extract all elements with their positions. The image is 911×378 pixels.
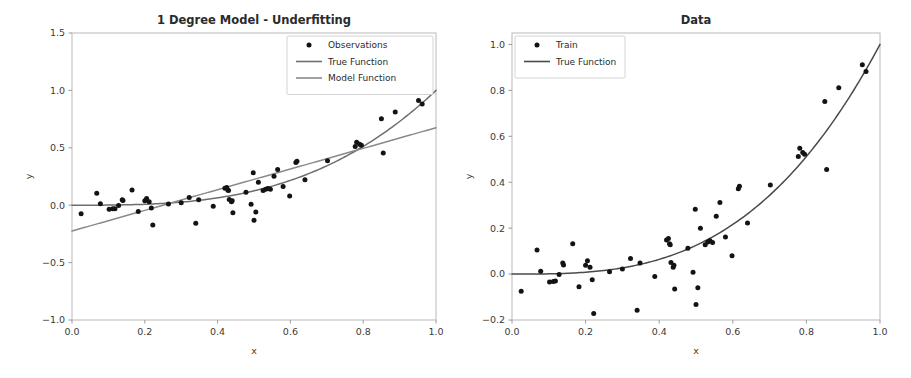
chart-title: 1 Degree Model - Underfitting [157, 13, 351, 27]
legend-marker-dot-icon [307, 43, 312, 48]
data-point [714, 214, 719, 219]
data-point [710, 240, 715, 245]
y-tick-label: 0.0 [50, 200, 65, 211]
data-point [561, 262, 566, 267]
legend-label: Observations [328, 40, 388, 50]
data-point [393, 109, 398, 114]
data-point [860, 62, 865, 67]
x-axis-label: x [693, 345, 699, 356]
data-point [130, 188, 135, 193]
data-point [420, 101, 425, 106]
data-point [585, 258, 590, 263]
data-point [535, 247, 540, 252]
data-point [179, 200, 184, 205]
figure-canvas: 1 Degree Model - Underfitting0.00.20.40.… [0, 0, 911, 378]
true-function-curve [512, 44, 880, 274]
legend-label: True Function [555, 57, 616, 67]
data-point [416, 98, 421, 103]
data-point [230, 198, 235, 203]
data-point [668, 242, 673, 247]
y-tick-label: 1.0 [50, 85, 65, 96]
x-tick-label: 0.8 [356, 326, 371, 337]
data-point [824, 167, 829, 172]
data-point [802, 152, 807, 157]
data-point [576, 284, 581, 289]
chart-panel-right: Data0.00.20.40.60.81.0−0.20.00.20.40.60.… [455, 0, 910, 378]
data-point [694, 302, 699, 307]
legend-marker-dot-icon [535, 43, 540, 48]
y-tick-label: 0.6 [490, 131, 505, 142]
data-point [588, 265, 593, 270]
data-point [243, 190, 248, 195]
x-tick-label: 0.8 [799, 326, 814, 337]
data-point [671, 263, 676, 268]
data-point [379, 116, 384, 121]
data-point [635, 308, 640, 313]
x-tick-label: 0.0 [64, 326, 79, 337]
scatter-series [79, 98, 425, 227]
data-point [253, 210, 258, 215]
data-point [116, 203, 121, 208]
x-tick-label: 0.2 [578, 326, 593, 337]
data-point [226, 188, 231, 193]
data-point [570, 241, 575, 246]
data-point [538, 269, 543, 274]
data-point [737, 184, 742, 189]
data-point [381, 150, 386, 155]
x-tick-label: 1.0 [428, 326, 443, 337]
data-point [768, 183, 773, 188]
data-point [628, 256, 633, 261]
x-tick-label: 0.2 [137, 326, 152, 337]
data-point [864, 69, 869, 74]
data-point [652, 274, 657, 279]
data-point [693, 207, 698, 212]
y-axis-label: y [23, 173, 34, 179]
data-point [211, 204, 216, 209]
model-function-curve [72, 128, 436, 231]
x-axis-label: x [251, 345, 257, 356]
x-tick-label: 0.4 [652, 326, 667, 337]
y-tick-label: 0.2 [490, 223, 505, 234]
data-point [730, 253, 735, 258]
data-point [691, 270, 696, 275]
y-tick-label: 1.5 [50, 27, 65, 38]
chart-panel-left: 1 Degree Model - Underfitting0.00.20.40.… [0, 0, 455, 378]
chart-title: Data [681, 13, 712, 27]
data-point [583, 263, 588, 268]
data-point [796, 154, 801, 159]
y-axis-label: y [463, 173, 474, 179]
data-point [252, 218, 257, 223]
data-point [607, 269, 612, 274]
data-point [590, 277, 595, 282]
x-tick-label: 0.6 [283, 326, 298, 337]
data-point [685, 246, 690, 251]
y-tick-label: 1.0 [490, 39, 505, 50]
data-point [638, 261, 643, 266]
data-point [136, 209, 141, 214]
x-tick-label: 0.0 [504, 326, 519, 337]
data-point [519, 289, 524, 294]
data-point [120, 198, 125, 203]
data-point [230, 210, 235, 215]
data-point [717, 200, 722, 205]
data-point [281, 184, 286, 189]
x-tick-label: 0.4 [210, 326, 225, 337]
data-point [193, 221, 198, 226]
y-tick-label: 0.5 [50, 142, 65, 153]
legend: ObservationsTrue FunctionModel Function [287, 36, 433, 95]
data-point [196, 197, 201, 202]
data-point [359, 143, 364, 148]
data-point [147, 199, 152, 204]
data-point [166, 202, 171, 207]
data-point [745, 221, 750, 226]
y-tick-label: −0.5 [42, 257, 65, 268]
data-point [302, 177, 307, 182]
y-tick-label: −0.2 [482, 314, 505, 325]
y-tick-label: 0.8 [490, 85, 505, 96]
right-plot-svg: Data0.00.20.40.60.81.0−0.20.00.20.40.60.… [455, 0, 911, 378]
data-point [723, 234, 728, 239]
scatter-series [519, 62, 869, 316]
data-point [150, 222, 155, 227]
data-point [275, 167, 280, 172]
legend-label: True Function [327, 57, 388, 67]
